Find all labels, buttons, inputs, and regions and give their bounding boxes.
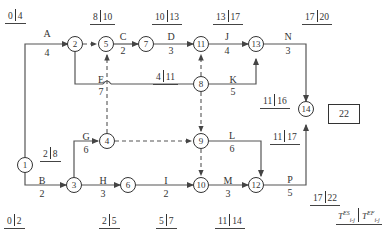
- time-label-m: 1114: [215, 214, 245, 229]
- time-label-j: 1317: [213, 10, 243, 25]
- activity-d-name: D: [165, 32, 177, 42]
- time-label-n: 1720: [302, 10, 332, 25]
- time-label-i: 57: [156, 214, 177, 229]
- total-duration-box: 22: [328, 104, 360, 124]
- activity-i-name: I: [160, 176, 172, 186]
- activity-g-duration: 6: [80, 145, 92, 155]
- node-13: 13: [248, 36, 264, 52]
- node-1: 1: [17, 157, 33, 173]
- activity-c-duration: 2: [117, 46, 129, 56]
- activity-p-duration: 5: [284, 188, 296, 198]
- time-label-k: 1116: [260, 94, 290, 109]
- time-label-a: 04: [5, 9, 26, 24]
- node-12: 12: [248, 177, 264, 193]
- activity-n-duration: 3: [282, 46, 294, 56]
- time-label-c: 810: [90, 10, 115, 25]
- activity-h-duration: 3: [97, 189, 109, 199]
- activity-c-name: C: [117, 32, 129, 42]
- activity-k-name: K: [227, 75, 239, 85]
- time-label-g: 28: [40, 147, 61, 162]
- activity-m-name: M: [222, 176, 234, 186]
- time-label-p: 1722: [310, 191, 340, 206]
- node-9: 9: [193, 133, 209, 149]
- node-10: 10: [193, 177, 209, 193]
- activity-g-name: G: [80, 132, 92, 142]
- activity-j-duration: 4: [221, 46, 233, 56]
- legend-es-ef: TESi-jTEFi-j: [336, 208, 382, 225]
- activity-m-duration: 3: [222, 189, 234, 199]
- activity-l-duration: 6: [226, 144, 238, 154]
- node-14: 14: [298, 101, 314, 117]
- activity-p-name: P: [284, 175, 296, 185]
- activity-d-duration: 3: [165, 46, 177, 56]
- activity-a-name: A: [41, 29, 53, 39]
- time-label-h: 25: [99, 214, 120, 229]
- node-8: 8: [193, 76, 209, 92]
- activity-n-name: N: [282, 32, 294, 42]
- activity-k-duration: 5: [227, 87, 239, 97]
- time-label-d: 1013: [152, 10, 182, 25]
- activity-i-duration: 2: [160, 189, 172, 199]
- activity-e-name: E: [95, 75, 107, 85]
- node-5: 5: [98, 36, 114, 52]
- node-6: 6: [120, 177, 136, 193]
- time-label-e: 411: [153, 70, 178, 85]
- time-label-l: 1117: [270, 130, 300, 145]
- activity-a-duration: 4: [41, 48, 53, 58]
- activity-b-name: B: [36, 176, 48, 186]
- activity-e-duration: 7: [95, 87, 107, 97]
- activity-b-duration: 2: [36, 189, 48, 199]
- node-11: 11: [193, 36, 209, 52]
- node-2: 2: [67, 36, 83, 52]
- activity-l-name: L: [226, 131, 238, 141]
- node-4: 4: [99, 133, 115, 149]
- node-7: 7: [138, 36, 154, 52]
- node-3: 3: [66, 177, 82, 193]
- activity-h-name: H: [97, 176, 109, 186]
- time-label-b: 02: [4, 214, 25, 229]
- activity-j-name: J: [221, 32, 233, 42]
